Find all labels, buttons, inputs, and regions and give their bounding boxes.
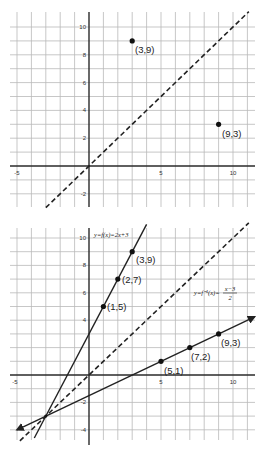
inverse-label-prefix: y=f⁻¹(x)= bbox=[193, 289, 220, 297]
label-2-7: (2,7) bbox=[122, 274, 142, 285]
tick-y-10: 10 bbox=[79, 24, 86, 30]
point-7-2 bbox=[187, 345, 192, 350]
label-9-3: (9,3) bbox=[222, 128, 242, 139]
tick-x-5: 5 bbox=[159, 379, 163, 385]
function-line bbox=[34, 224, 146, 438]
point-3-9 bbox=[130, 38, 135, 43]
tick-x-neg5: -5 bbox=[12, 379, 18, 385]
top-chart: -5 5 10 10 8 6 4 2 -2 (3,9) (9,3) bbox=[10, 12, 255, 208]
tick-x-10: 10 bbox=[230, 379, 237, 385]
figure: -5 5 10 10 8 6 4 2 -2 (3,9) (9,3) bbox=[0, 0, 264, 451]
label-3-9: (3,9) bbox=[135, 44, 155, 55]
tick-y-10: 10 bbox=[79, 235, 86, 241]
tick-y-neg4: -4 bbox=[81, 427, 87, 433]
label-5-1: (5,1) bbox=[164, 365, 184, 376]
point-2-7 bbox=[115, 277, 120, 282]
label-3-9: (3,9) bbox=[136, 254, 156, 265]
point-9-3 bbox=[216, 122, 221, 127]
bottom-chart: -5 5 10 10 8 6 4 -2 -4 y=f(x)=2x+3 y=f⁻¹… bbox=[10, 223, 255, 445]
tick-x-neg5: -5 bbox=[14, 170, 20, 176]
point-9-3 bbox=[216, 331, 221, 336]
tick-y-neg2: -2 bbox=[81, 191, 87, 197]
inverse-label-denominator: 2 bbox=[228, 294, 232, 301]
inverse-function-label: y=f⁻¹(x)= x−3 2 bbox=[193, 285, 237, 301]
intersection-point bbox=[44, 415, 47, 418]
tick-y-neg2: -2 bbox=[81, 399, 87, 405]
label-1-5: (1,5) bbox=[107, 301, 127, 312]
inverse-label-numerator: x−3 bbox=[224, 285, 236, 292]
label-7-2: (7,2) bbox=[191, 351, 211, 362]
bottom-identity-line bbox=[20, 223, 249, 441]
function-label: y=f(x)=2x+3 bbox=[93, 231, 129, 239]
tick-x-5: 5 bbox=[159, 170, 163, 176]
point-1-5 bbox=[101, 304, 106, 309]
point-5-1 bbox=[158, 359, 163, 364]
tick-x-10: 10 bbox=[230, 170, 237, 176]
point-3-9 bbox=[130, 249, 135, 254]
label-9-3: (9,3) bbox=[221, 337, 241, 348]
